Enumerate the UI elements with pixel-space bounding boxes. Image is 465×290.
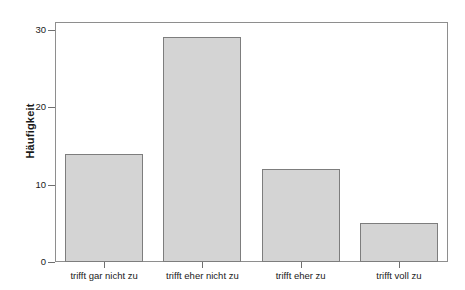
x-axis-tick	[104, 262, 105, 268]
y-axis-tick	[48, 30, 55, 31]
y-axis-tick-label: 30	[2, 25, 46, 35]
bar	[262, 169, 340, 262]
y-axis-tick-label: 0	[2, 257, 46, 267]
bars-layer	[55, 22, 448, 262]
x-axis-tick	[202, 262, 203, 268]
y-axis-tick	[48, 185, 55, 186]
x-axis-tick	[399, 262, 400, 268]
y-axis-tick-labels: 0102030	[0, 0, 46, 290]
bar	[360, 223, 438, 262]
x-axis-tick-label: trifft voll zu	[376, 270, 421, 281]
y-axis-tick-label: 20	[2, 102, 46, 112]
x-axis-tick	[301, 262, 302, 268]
bar-chart: Häufigkeit 0102030 trifft gar nicht zutr…	[0, 0, 465, 290]
x-axis-tick-label: trifft gar nicht zu	[70, 270, 137, 281]
y-axis-tick-label: 10	[2, 180, 46, 190]
y-axis-tick	[48, 107, 55, 108]
x-axis-tick-label: trifft eher zu	[276, 270, 326, 281]
bar	[163, 37, 241, 262]
y-axis-tick	[48, 262, 55, 263]
x-axis-tick-label: trifft eher nicht zu	[166, 270, 239, 281]
bar	[65, 154, 143, 262]
